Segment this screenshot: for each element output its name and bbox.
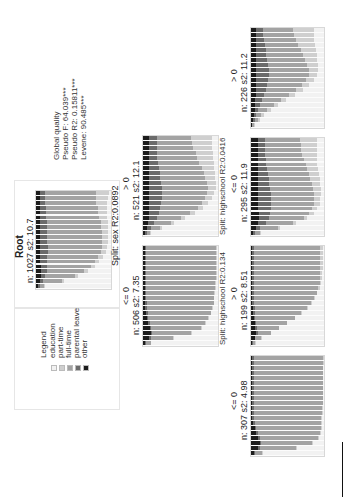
chart-segment-parental-leave [149, 181, 161, 185]
chart-row [251, 426, 324, 431]
chart-segment-part-time [205, 196, 212, 200]
chart-segment-full-time [254, 401, 323, 405]
chart-segment-parental-leave [258, 177, 269, 181]
chart-segment-full-time [146, 276, 216, 280]
chart-segment-full-time [47, 265, 91, 269]
chart-row [251, 421, 324, 426]
chart-segment-parental-leave [149, 206, 160, 210]
chart-row [251, 138, 324, 143]
chart-row [143, 211, 218, 216]
chart-row [143, 281, 218, 286]
chart-segment-full-time [265, 138, 300, 142]
chart-segment-full-time [160, 176, 205, 180]
chart-segment-education [151, 341, 218, 345]
node-295-chart [250, 137, 325, 237]
legend-frame [14, 308, 120, 410]
chart-segment-full-time [254, 286, 318, 290]
node-295-stats: n: 295 s2: 11.9 [240, 163, 249, 222]
chart-segment-full-time [146, 291, 214, 295]
chart-segment-full-time [254, 266, 320, 270]
chart-segment-full-time [255, 311, 302, 315]
chart-row [251, 336, 324, 341]
chart-segment-part-time [191, 136, 212, 140]
chart-row [251, 251, 324, 256]
chart-segment-education [206, 321, 218, 325]
chart-segment-full-time [154, 221, 171, 225]
chart-row [251, 207, 324, 212]
chart-segment-education [286, 98, 324, 102]
chart-segment-full-time [271, 197, 314, 201]
chart-segment-full-time [159, 211, 191, 215]
chart-row [251, 276, 324, 281]
chart-row [143, 161, 218, 166]
chart-segment-full-time [254, 391, 323, 395]
chart-segment-part-time [101, 225, 108, 229]
chart-row [251, 356, 324, 361]
root-chart [35, 190, 112, 290]
chart-segment-parental-leave [256, 63, 268, 67]
chart-segment-parental-leave [258, 202, 271, 206]
chart-row [251, 296, 324, 301]
node-226-chart [250, 27, 325, 129]
chart-row [251, 212, 324, 217]
scale-bar-line [342, 442, 343, 497]
chart-row [36, 191, 111, 196]
chart-segment-parental-leave [40, 220, 47, 224]
chart-segment-part-time [98, 206, 108, 210]
chart-segment-parental-leave [256, 28, 263, 32]
chart-segment-education [313, 441, 324, 445]
chart-row [251, 48, 324, 53]
chart-segment-parental-leave [258, 153, 265, 157]
chart-row [143, 316, 218, 321]
chart-row [36, 206, 111, 211]
chart-segment-full-time [265, 148, 302, 152]
chart-row [251, 271, 324, 276]
chart-segment-other [251, 446, 258, 450]
chart-segment-full-time [147, 306, 212, 310]
chart-segment-full-time [266, 158, 304, 162]
node-506-split-label: Split: highschool R2:0.134 [219, 252, 227, 345]
legend-swatch-other [83, 365, 89, 371]
chart-segment-full-time [162, 196, 206, 200]
chart-segment-education [322, 416, 324, 420]
chart-segment-education [279, 326, 324, 330]
chart-segment-full-time [260, 446, 297, 450]
chart-row [36, 250, 111, 255]
chart-segment-full-time [263, 28, 292, 32]
chart-segment-part-time [312, 182, 321, 186]
chart-row [251, 58, 324, 63]
chart-segment-part-time [304, 158, 317, 162]
chart-row [36, 274, 111, 279]
chart-row [251, 396, 324, 401]
chart-row [251, 316, 324, 321]
chart-segment-full-time [161, 201, 202, 205]
chart-segment-parental-leave [258, 158, 266, 162]
chart-segment-part-time [301, 143, 318, 147]
chart-segment-full-time [47, 230, 102, 234]
chart-segment-education [295, 93, 324, 97]
chart-segment-education [315, 43, 324, 47]
chart-segment-education [320, 177, 324, 181]
chart-row [251, 108, 324, 113]
chart-segment-full-time [48, 245, 102, 249]
chart-segment-full-time [146, 251, 216, 255]
chart-segment-education [185, 216, 218, 220]
node-506-condition: <= 0 [122, 287, 131, 305]
legend-title: Legend [40, 331, 48, 358]
chart-segment-education [318, 63, 324, 67]
chart-row [251, 416, 324, 421]
chart-segment-part-time [99, 216, 107, 220]
chart-segment-education [307, 216, 324, 220]
chart-segment-education [323, 371, 324, 375]
chart-segment-education [323, 381, 324, 385]
chart-segment-full-time [47, 235, 102, 239]
chart-segment-full-time [152, 331, 191, 335]
chart-row [36, 240, 111, 245]
chart-row [251, 391, 324, 396]
chart-row [36, 265, 111, 270]
chart-segment-full-time [266, 163, 305, 167]
chart-row [143, 216, 218, 221]
chart-segment-education [309, 83, 324, 87]
chart-segment-education [78, 274, 111, 278]
chart-segment-full-time [46, 216, 99, 220]
